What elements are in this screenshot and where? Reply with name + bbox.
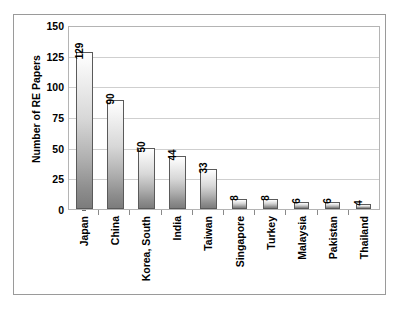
- x-axis-tick-mark: [349, 210, 380, 215]
- bar-value-label: 33: [199, 162, 209, 173]
- x-axis-category-labels: JapanChinaKorea, SouthIndiaTaiwanSingapo…: [68, 216, 380, 292]
- bar-slot: 90: [100, 27, 131, 209]
- x-axis-category-label: Turkey: [266, 216, 277, 292]
- y-axis-tick-label: 25: [32, 174, 64, 185]
- x-axis-label-cell: China: [99, 216, 130, 292]
- x-axis-tick-mark: [162, 210, 193, 215]
- bar[interactable]: 4: [356, 204, 371, 209]
- bar-series: 1299050443388664: [69, 27, 379, 209]
- bar-value-label: 50: [137, 142, 147, 153]
- x-axis-tick-mark: [318, 210, 349, 215]
- bar-slot: 33: [193, 27, 224, 209]
- bar-slot: 8: [255, 27, 286, 209]
- bar[interactable]: 6: [294, 202, 309, 209]
- x-axis-category-label: Japan: [78, 216, 89, 292]
- bar-value-label: 44: [168, 149, 178, 160]
- chart-figure: Number of RE Papers 0255075100125150 129…: [13, 14, 386, 295]
- bar[interactable]: 44: [169, 156, 186, 209]
- x-axis-category-label: Taiwan: [203, 216, 214, 292]
- y-axis-tick-label: 150: [32, 21, 64, 32]
- bar-slot: 6: [317, 27, 348, 209]
- x-axis-label-cell: Thailand: [349, 216, 380, 292]
- bar[interactable]: 50: [138, 148, 155, 209]
- bar-value-label: 129: [75, 43, 85, 60]
- x-axis-tick-mark: [224, 210, 255, 215]
- bar-value-label: 6: [323, 198, 333, 204]
- y-axis-tick-label: 100: [32, 82, 64, 93]
- x-axis-category-label: Pakistan: [328, 216, 339, 292]
- y-axis-tick-labels: 0255075100125150: [32, 26, 64, 210]
- x-axis-category-label: India: [172, 216, 183, 292]
- bar[interactable]: 6: [325, 202, 340, 209]
- y-axis-tick-label: 50: [32, 143, 64, 154]
- bar-value-label: 8: [230, 196, 240, 202]
- bar-slot: 8: [224, 27, 255, 209]
- bar[interactable]: 90: [107, 100, 124, 209]
- bar-slot: 50: [131, 27, 162, 209]
- y-axis-tick-label: 0: [32, 205, 64, 216]
- y-axis-tick-label: 75: [32, 113, 64, 124]
- x-axis-label-cell: India: [162, 216, 193, 292]
- bar-value-label: 8: [261, 196, 271, 202]
- bar[interactable]: 8: [263, 199, 278, 209]
- x-axis-tick-mark: [286, 210, 317, 215]
- x-axis-category-label: Singapore: [234, 216, 245, 292]
- x-axis-label-cell: Singapore: [224, 216, 255, 292]
- x-axis-tick-mark: [255, 210, 286, 215]
- plot-area: 1299050443388664: [68, 26, 380, 210]
- bar[interactable]: 8: [232, 199, 247, 209]
- x-axis-tick-mark: [68, 210, 99, 215]
- bar-value-label: 4: [354, 200, 364, 206]
- x-axis-category-label: Thailand: [359, 216, 370, 292]
- x-axis-label-cell: Turkey: [255, 216, 286, 292]
- bar-slot: 44: [162, 27, 193, 209]
- x-axis-category-label: Korea, South: [141, 216, 152, 292]
- x-axis-tick-mark: [193, 210, 224, 215]
- bar[interactable]: 129: [76, 52, 93, 209]
- x-axis-tick-mark: [130, 210, 161, 215]
- x-axis-label-cell: Japan: [68, 216, 99, 292]
- x-axis-category-label: China: [110, 216, 121, 292]
- y-axis-tick-label: 125: [32, 51, 64, 62]
- bar-value-label: 6: [292, 198, 302, 204]
- bar-slot: 4: [348, 27, 379, 209]
- bar-slot: 129: [69, 27, 100, 209]
- x-axis-label-cell: Taiwan: [193, 216, 224, 292]
- x-axis-category-label: Malaysia: [297, 216, 308, 292]
- bar[interactable]: 33: [200, 169, 217, 209]
- x-axis-tick-mark: [99, 210, 130, 215]
- x-axis-label-cell: Pakistan: [318, 216, 349, 292]
- bar-slot: 6: [286, 27, 317, 209]
- x-axis-label-cell: Malaysia: [286, 216, 317, 292]
- x-axis-ticks: [68, 210, 380, 215]
- bar-value-label: 90: [106, 93, 116, 104]
- x-axis-label-cell: Korea, South: [130, 216, 161, 292]
